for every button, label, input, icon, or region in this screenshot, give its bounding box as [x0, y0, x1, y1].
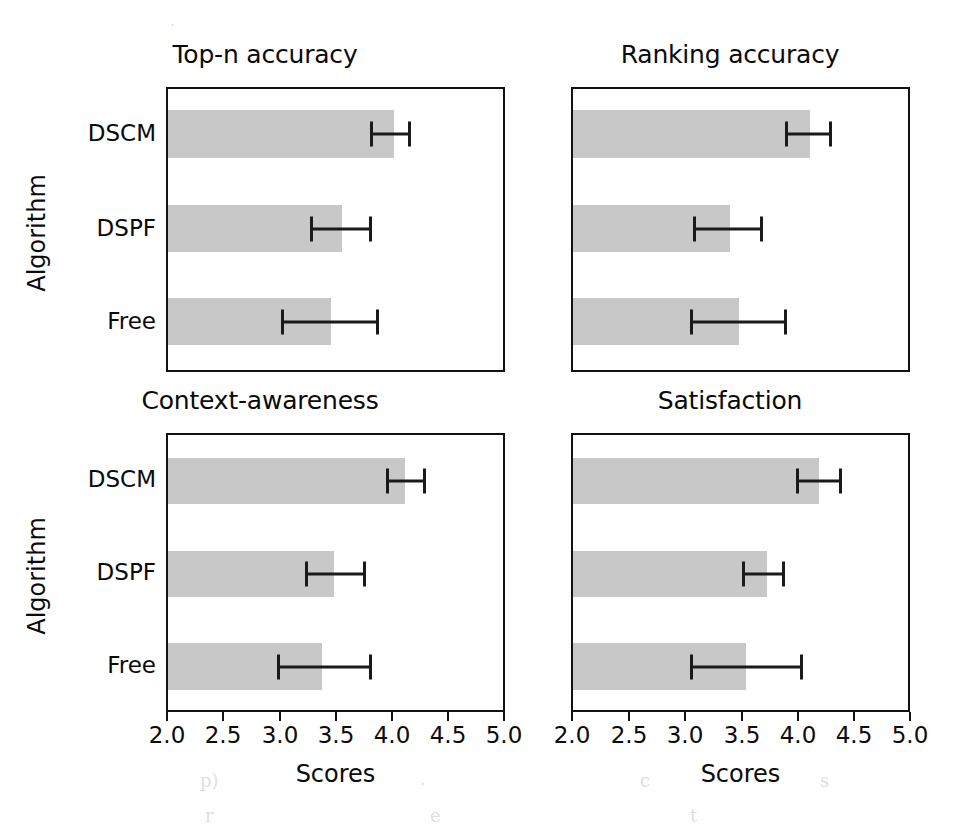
- xtick-label: 2.0: [554, 722, 591, 748]
- xtick-label: 4.5: [836, 722, 873, 748]
- bar-dspf: [573, 551, 767, 597]
- bar-dscm: [573, 458, 819, 504]
- panel-bottom-right: Satisfaction: [0, 0, 969, 833]
- xtick-label: 4.0: [780, 722, 817, 748]
- xtick-mark: [741, 712, 743, 721]
- plot-area-bottom-right: [571, 433, 910, 712]
- xtick-label: 3.5: [724, 722, 761, 748]
- xtick-mark: [853, 712, 855, 721]
- figure-canvas: . p) . c s r e t Top-n accuracy: [0, 0, 969, 833]
- xtick-mark: [628, 712, 630, 721]
- xaxis-label-bottom-right: Scores: [571, 760, 910, 788]
- xtick-label: 5.0: [892, 722, 929, 748]
- panel-title-bottom-right: Satisfaction: [520, 386, 940, 415]
- xtick-mark: [909, 712, 911, 721]
- xtick-label: 3.0: [667, 722, 704, 748]
- xtick-mark: [571, 712, 573, 721]
- xtick-mark: [797, 712, 799, 721]
- xtick-label: 2.5: [611, 722, 648, 748]
- xtick-mark: [684, 712, 686, 721]
